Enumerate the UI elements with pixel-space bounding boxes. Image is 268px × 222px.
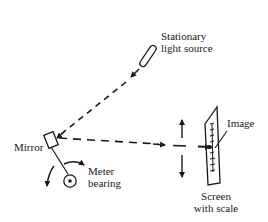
mirror-icon: [44, 132, 59, 149]
label-meter-bearing: Meter bearing: [88, 165, 121, 189]
light-source-icon: [139, 44, 158, 67]
reflected-beam: [59, 138, 210, 147]
label-image: Image: [227, 117, 254, 129]
meter-bearing-icon: [64, 175, 76, 187]
label-meter-bearing-line1: Meter: [88, 165, 121, 177]
screen-icon: [205, 107, 220, 185]
label-mirror: Mirror: [14, 141, 43, 153]
incident-beam: [57, 69, 139, 138]
label-screen-line2: with scale: [192, 202, 240, 214]
label-meter-bearing-line2: bearing: [88, 177, 121, 189]
label-screen: Screen with scale: [192, 190, 240, 214]
label-light-source: Stationary light source: [161, 30, 213, 54]
diagram-canvas: [0, 0, 268, 222]
rotation-arrow-right-icon: [64, 162, 84, 165]
label-light-source-line1: Stationary: [161, 30, 213, 42]
mirror-stem: [51, 147, 68, 174]
label-screen-line1: Screen: [192, 190, 240, 202]
label-light-source-line2: light source: [161, 42, 213, 54]
rotation-arrow-left-icon: [47, 166, 54, 186]
